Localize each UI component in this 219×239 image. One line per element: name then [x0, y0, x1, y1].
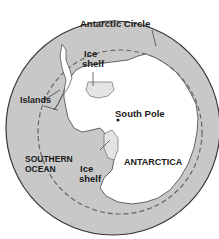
antarctic-circle-label: Antarctic Circle: [80, 18, 150, 29]
ice-shelf-bottom-label-2: shelf: [79, 173, 102, 184]
islands-label: Islands: [20, 95, 51, 105]
ice-shelf-top-label-2: shelf: [82, 58, 105, 69]
southern-ocean-label-2: OCEAN: [25, 164, 56, 174]
antarctica-map: Antarctic Circle Ice shelf Islands South…: [0, 0, 219, 239]
southern-ocean-label-1: SOUTHERN: [25, 154, 73, 164]
antarctica-label: ANTARCTICA: [124, 157, 183, 167]
south-pole-label: South Pole: [115, 108, 165, 119]
